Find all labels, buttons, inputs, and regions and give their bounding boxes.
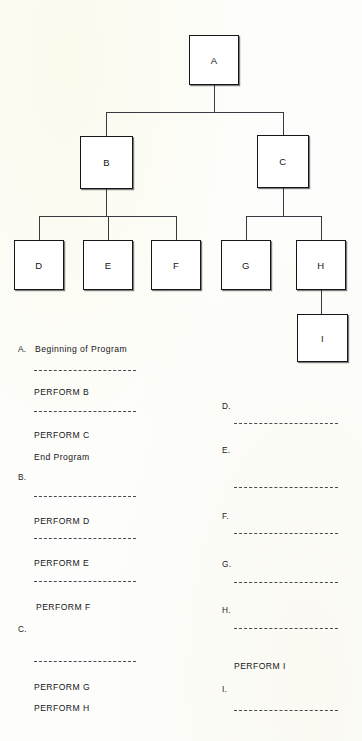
chart-node-g[interactable]: G <box>221 240 271 290</box>
code-statement: PERFORM F <box>36 602 91 612</box>
blank-write-in-rule <box>34 538 136 539</box>
code-statement: PERFORM I <box>234 661 286 671</box>
chart-node-label: B <box>103 157 110 168</box>
chart-node-label: H <box>317 260 324 271</box>
blank-write-in-rule <box>34 661 136 662</box>
chart-node-label: I <box>321 333 324 344</box>
blank-write-in-rule <box>234 582 338 583</box>
connector-H-I <box>321 290 322 314</box>
chart-node-label: F <box>173 260 179 271</box>
paragraph-label-f: F. <box>222 511 229 521</box>
connector-B-D <box>39 216 40 240</box>
code-statement: Beginning of Program <box>35 344 127 354</box>
paragraph-label-i: I. <box>222 684 227 694</box>
paragraph-label-b: B. <box>18 472 26 482</box>
connector-B-F <box>176 216 177 240</box>
paragraph-label-e: E. <box>222 445 230 455</box>
paragraph-label-c: C. <box>18 624 27 634</box>
blank-write-in-rule <box>234 487 338 488</box>
blank-write-in-rule <box>234 628 338 629</box>
blank-write-in-rule <box>34 581 136 582</box>
connector-A-C <box>283 112 284 135</box>
blank-write-in-rule <box>34 411 136 412</box>
connector-C-G <box>246 216 247 240</box>
blank-write-in-rule <box>234 423 338 424</box>
chart-node-label: E <box>105 260 112 271</box>
chart-node-e[interactable]: E <box>83 240 133 290</box>
chart-node-label: G <box>242 260 250 271</box>
blank-write-in-rule <box>234 533 338 534</box>
code-statement: PERFORM C <box>34 430 90 440</box>
blank-write-in-rule <box>34 370 136 371</box>
code-statement: PERFORM H <box>34 703 90 713</box>
chart-node-a[interactable]: A <box>189 35 239 85</box>
paragraph-label-h: H. <box>222 605 231 615</box>
blank-write-in-rule <box>234 710 338 711</box>
code-statement: End Program <box>34 452 90 462</box>
chart-node-label: C <box>279 156 286 167</box>
code-statement: PERFORM G <box>34 682 90 692</box>
chart-node-i[interactable]: I <box>297 314 348 362</box>
chart-node-f[interactable]: F <box>151 240 201 290</box>
chart-node-d[interactable]: D <box>14 240 64 290</box>
chart-node-label: A <box>211 55 218 66</box>
connector-stem-A <box>214 85 215 112</box>
chart-node-h[interactable]: H <box>296 240 346 290</box>
connector-bus-C <box>246 216 321 217</box>
document-page: ABCDEFGHI A.Beginning of ProgramPERFORM … <box>0 0 362 741</box>
connector-stem-B <box>106 189 107 216</box>
chart-node-label: D <box>35 260 42 271</box>
connector-B-E <box>108 216 109 240</box>
blank-write-in-rule <box>34 496 136 497</box>
code-statement: PERFORM B <box>34 387 89 397</box>
code-statement: PERFORM D <box>34 516 90 526</box>
paragraph-label-d: D. <box>222 401 231 411</box>
connector-A-B <box>106 112 107 136</box>
code-statement: PERFORM E <box>34 558 89 568</box>
paragraph-label-g: G. <box>222 559 231 569</box>
connector-stem-C <box>283 188 284 216</box>
chart-node-b[interactable]: B <box>80 136 133 189</box>
chart-node-c[interactable]: C <box>257 135 309 188</box>
connector-bus-A <box>107 112 284 113</box>
paragraph-label-a: A. <box>18 344 26 354</box>
connector-C-H <box>321 216 322 240</box>
